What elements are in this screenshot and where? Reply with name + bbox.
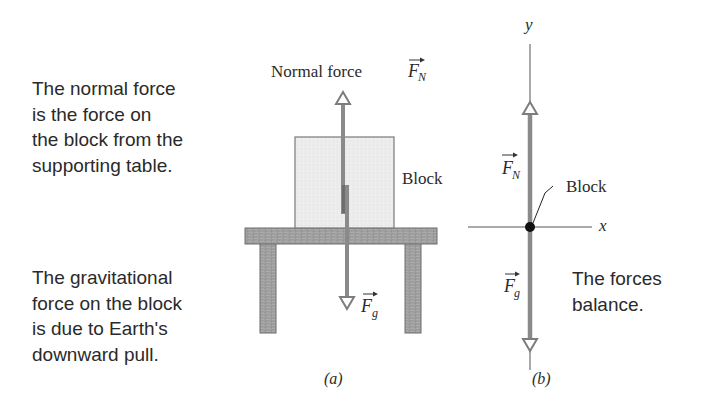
free-body-diagram: Normal force F N Block F g (a) y x <box>0 0 711 409</box>
panel-a-label: (a) <box>324 370 343 388</box>
table-top <box>245 228 437 244</box>
gravity-vector-symbol-b: F g <box>503 272 520 301</box>
svg-text:N: N <box>511 168 521 182</box>
gravity-vector-symbol-a: F g <box>360 292 378 321</box>
gravity-arrowhead-b <box>523 339 537 351</box>
svg-text:g: g <box>514 286 520 300</box>
table-leg-left <box>260 243 276 333</box>
block-leader-line <box>533 186 553 223</box>
normal-force-vector-symbol: F N <box>407 58 427 85</box>
normal-force-arrowhead-b <box>523 102 537 114</box>
svg-text:g: g <box>372 306 378 320</box>
normal-force-label: Normal force <box>271 62 362 81</box>
block-dot <box>525 222 535 232</box>
panel-a: Normal force F N Block F g (a) <box>245 58 443 389</box>
x-axis-label: x <box>598 216 607 235</box>
block-label-a: Block <box>402 169 443 188</box>
panel-b-label: (b) <box>532 370 551 388</box>
panel-b: y x Block F N F g (b) <box>468 15 607 388</box>
table-leg-right <box>405 243 421 333</box>
block-label-b: Block <box>566 177 607 196</box>
normal-vector-symbol-b: F N <box>501 153 521 183</box>
gravity-arrowhead <box>340 297 354 309</box>
y-axis-label: y <box>523 15 533 34</box>
svg-text:N: N <box>417 70 427 84</box>
normal-force-arrowhead <box>336 92 350 104</box>
